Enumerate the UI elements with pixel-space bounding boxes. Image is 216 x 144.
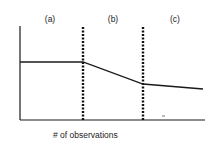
phase-label-b: (b) <box>108 14 118 24</box>
phase-label-c: (c) <box>170 14 180 24</box>
phase-label-a: (a) <box>45 14 55 24</box>
data-curve <box>20 62 203 89</box>
x-axis-label: # of observations <box>53 130 118 140</box>
